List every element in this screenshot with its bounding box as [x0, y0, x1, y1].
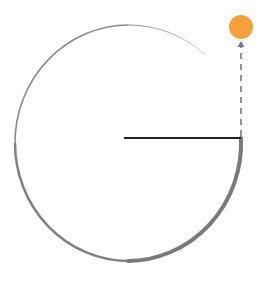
arc-diagram	[0, 0, 263, 284]
arc-medium-segment	[15, 143, 128, 261]
arc-thick-segment	[128, 138, 241, 261]
arrow-head-icon	[238, 41, 245, 47]
arc-thin-segment	[15, 25, 128, 143]
arc-fading-tail	[128, 25, 205, 55]
orange-dot	[229, 15, 253, 39]
